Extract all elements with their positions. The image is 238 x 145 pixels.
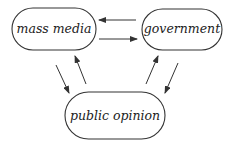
node-government: government: [142, 9, 222, 50]
node-mass-media: mass media: [12, 8, 96, 50]
arrow-government-to-public-opinion: [165, 63, 178, 93]
arrow-public-opinion-to-government: [146, 56, 158, 84]
node-label-government: government: [144, 21, 221, 36]
influence-diagram: mass media government public opinion: [0, 0, 238, 145]
arrow-public-opinion-to-mass-media: [75, 56, 86, 84]
node-public-opinion: public opinion: [65, 92, 165, 139]
node-label-public-opinion: public opinion: [70, 108, 160, 123]
node-label-mass-media: mass media: [17, 21, 92, 36]
arrow-mass-media-to-public-opinion: [56, 65, 69, 93]
